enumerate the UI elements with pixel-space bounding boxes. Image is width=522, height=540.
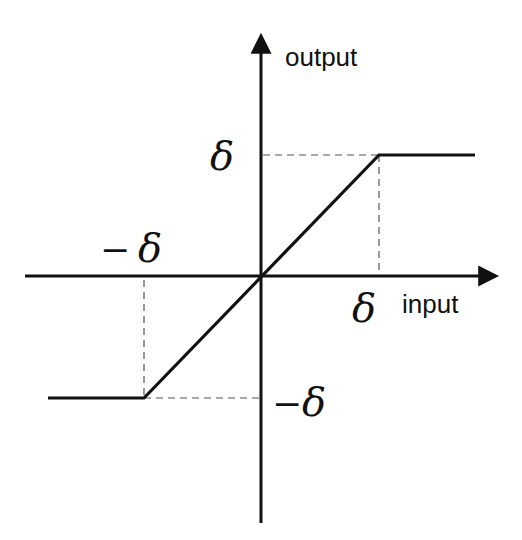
y-axis-label: output [285, 42, 358, 72]
pos-x-tick-label: δ [352, 285, 376, 331]
pos-y-tick-label: δ [210, 133, 234, 179]
neg-y-tick-minus: − [272, 383, 302, 424]
neg-x-tick-label: δ [138, 225, 162, 271]
neg-y-tick-label: δ [302, 379, 326, 425]
x-axis-label: input [402, 289, 459, 319]
saturation-diagram: output input δ − δ δ − δ [0, 0, 522, 540]
neg-x-tick-minus: − [100, 229, 130, 270]
